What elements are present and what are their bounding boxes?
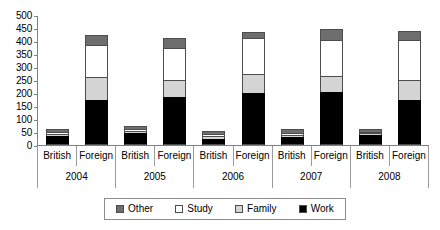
legend-label: Work: [311, 204, 334, 214]
bar-segment-other: [398, 31, 421, 40]
plot-area: 500450400350300250200150100500: [37, 16, 429, 146]
bar-segment-study: [398, 40, 421, 80]
legend-label: Other: [128, 204, 153, 214]
chart-legend: OtherStudyFamilyWork: [104, 198, 346, 220]
legend-label: Study: [187, 204, 213, 214]
year-label-2004: 2004: [37, 166, 115, 188]
bar-group-2006: [194, 16, 272, 145]
bar-segment-other: [320, 29, 343, 39]
bar-segment-work: [359, 135, 382, 145]
category-label-british: British: [194, 146, 232, 166]
bar-segment-study: [320, 40, 343, 76]
bar-2007-foreign[interactable]: [320, 29, 343, 145]
bar-2008-british[interactable]: [359, 129, 382, 145]
bar-segment-work: [242, 93, 265, 145]
legend-item-study[interactable]: Study: [175, 204, 213, 214]
legend-swatch-other-icon: [116, 205, 124, 213]
bar-segment-work: [85, 100, 108, 146]
category-group-2005: BritishForeign: [115, 146, 193, 166]
bar-segment-study: [242, 38, 265, 73]
category-label-british: British: [273, 146, 311, 166]
category-label-foreign: Foreign: [154, 146, 193, 166]
legend-item-other[interactable]: Other: [116, 204, 153, 214]
category-label-foreign: Foreign: [311, 146, 350, 166]
bar-segment-family: [163, 80, 186, 97]
bar-2005-foreign[interactable]: [163, 38, 186, 145]
bar-segment-work: [163, 97, 186, 145]
bar-2006-british[interactable]: [202, 131, 225, 145]
legend-swatch-work-icon: [299, 205, 307, 213]
bar-segment-work: [46, 136, 69, 145]
year-label-2006: 2006: [193, 166, 271, 188]
category-label-foreign: Foreign: [389, 146, 428, 166]
bar-segment-family: [85, 77, 108, 99]
bar-groups: [38, 16, 429, 145]
bar-2006-foreign[interactable]: [242, 32, 265, 145]
bar-group-2004: [38, 16, 116, 145]
bar-2004-foreign[interactable]: [85, 35, 108, 145]
bar-segment-study: [85, 45, 108, 78]
category-group-2006: BritishForeign: [193, 146, 271, 166]
category-group-2008: BritishForeign: [350, 146, 429, 166]
year-label-2008: 2008: [350, 166, 429, 188]
category-axis: BritishForeignBritishForeignBritishForei…: [37, 146, 429, 166]
bar-segment-family: [320, 76, 343, 92]
bar-segment-other: [85, 35, 108, 45]
bar-segment-work: [281, 137, 304, 145]
bar-group-2008: [351, 16, 429, 145]
bar-segment-work: [124, 133, 147, 145]
category-label-foreign: Foreign: [76, 146, 115, 166]
bar-group-2007: [273, 16, 351, 145]
legend-item-family[interactable]: Family: [235, 204, 276, 214]
bar-segment-work: [320, 92, 343, 145]
category-label-british: British: [116, 146, 154, 166]
bar-segment-other: [163, 38, 186, 47]
category-group-2004: BritishForeign: [37, 146, 115, 166]
legend-label: Family: [247, 204, 276, 214]
bar-2004-british[interactable]: [46, 129, 69, 145]
category-group-2007: BritishForeign: [272, 146, 350, 166]
bar-segment-family: [242, 74, 265, 94]
bar-2005-british[interactable]: [124, 126, 147, 145]
bar-segment-study: [163, 48, 186, 81]
bar-segment-work: [398, 100, 421, 146]
category-label-british: British: [38, 146, 76, 166]
legend-item-work[interactable]: Work: [299, 204, 334, 214]
bar-2007-british[interactable]: [281, 129, 304, 145]
year-label-2007: 2007: [272, 166, 350, 188]
category-label-foreign: Foreign: [233, 146, 272, 166]
year-axis: 20042005200620072008: [37, 166, 429, 188]
year-label-2005: 2005: [115, 166, 193, 188]
legend-swatch-study-icon: [175, 205, 183, 213]
bar-segment-work: [202, 139, 225, 146]
bar-group-2005: [116, 16, 194, 145]
legend-swatch-family-icon: [235, 205, 243, 213]
bar-2008-foreign[interactable]: [398, 31, 421, 145]
stacked-bar-chart: 500450400350300250200150100500 BritishFo…: [0, 0, 440, 230]
category-label-british: British: [351, 146, 389, 166]
bar-segment-family: [398, 80, 421, 100]
